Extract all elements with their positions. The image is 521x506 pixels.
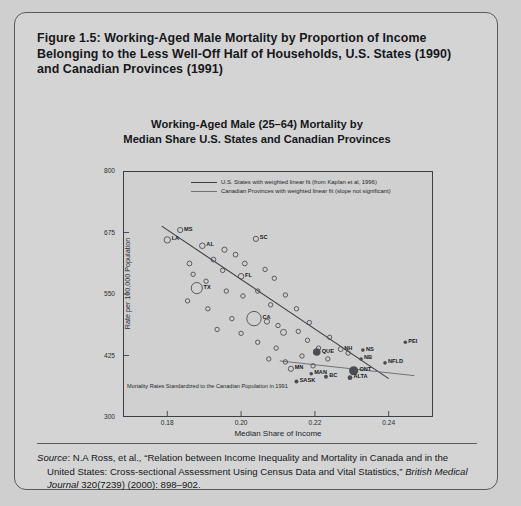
point-label-NB: NB xyxy=(364,354,372,360)
point-label-CA: CA xyxy=(262,314,270,320)
point-NB xyxy=(359,357,363,361)
y-tick-300: 300 xyxy=(75,413,123,420)
x-tick-0.24: 0.24 xyxy=(369,419,409,426)
source-body-2: 320(7239) (2000): 898–902. xyxy=(78,479,200,490)
point-label-AL: AL xyxy=(206,241,213,247)
point-label-NFLD: NFLD xyxy=(388,358,403,364)
x-axis-label: Median Share of Income xyxy=(123,429,433,438)
chart-title-line2: Median Share U.S. States and Canadian Pr… xyxy=(15,132,499,147)
y-tick-425: 425 xyxy=(75,352,123,359)
point-label-MN: MN xyxy=(295,364,304,370)
point-label-ALTA: ALTA xyxy=(354,373,368,379)
plot-canvas xyxy=(123,171,433,417)
chart-title: Working-Aged Male (25–64) Mortality by M… xyxy=(15,117,499,146)
point-label-TX: TX xyxy=(204,284,211,290)
chart-title-line1: Working-Aged Male (25–64) Mortality by xyxy=(15,117,499,132)
x-tick-0.18: 0.18 xyxy=(147,419,187,426)
legend-item-canada-fit: Canadian Provinces with weighted linear … xyxy=(191,188,391,194)
point-label-MAN: MAN xyxy=(314,369,327,375)
point-NFLD xyxy=(383,361,387,365)
point-label-FL: FL xyxy=(245,272,252,278)
legend-swatch-canada-fit xyxy=(191,191,217,192)
point-SASK xyxy=(294,380,298,384)
point-label-PEI: PEI xyxy=(408,338,417,344)
source-label: Source xyxy=(37,452,67,463)
y-tick-675: 675 xyxy=(75,229,123,236)
y-tick-800: 800 xyxy=(75,167,123,174)
point-label-SC: SC xyxy=(260,234,268,240)
legend-item-us-fit: U.S. States with weighted linear fit (fr… xyxy=(191,179,377,185)
x-tick-0.20: 0.20 xyxy=(221,419,261,426)
x-tick-0.22: 0.22 xyxy=(295,419,335,426)
point-MAN xyxy=(309,372,313,376)
point-PEI xyxy=(404,340,408,344)
point-label-LA: LA xyxy=(172,235,179,241)
point-NS xyxy=(361,348,365,352)
point-ALTA xyxy=(348,375,353,380)
point-QUE xyxy=(313,348,321,356)
plot-frame-rect xyxy=(124,172,433,417)
y-tick-550: 550 xyxy=(75,290,123,297)
source-citation: Source: N.A Ross, et al., “Relation betw… xyxy=(37,451,477,492)
figure-caption: Figure 1.5: Working-Aged Male Mortality … xyxy=(37,31,467,78)
point-label-QUE: QUE xyxy=(322,348,334,354)
point-label-BC: BC xyxy=(329,372,337,378)
plot-note: Mortality Rates Standardized to the Cana… xyxy=(127,383,288,389)
source-body-1: N.A Ross, et al., “Relation between Inco… xyxy=(47,452,448,477)
legend-swatch-us-fit xyxy=(191,182,217,183)
point-BC xyxy=(324,375,328,379)
point-label-MS: MS xyxy=(184,226,192,232)
point-label-NS: NS xyxy=(366,346,374,352)
legend-label-us-fit: U.S. States with weighted linear fit (fr… xyxy=(221,179,377,185)
point-label-NH: NH xyxy=(344,345,352,351)
point-label-SASK: SASK xyxy=(300,377,316,383)
scatter-plot: Rate per 100,000 Population Median Share… xyxy=(123,171,433,417)
source-divider xyxy=(37,443,477,444)
legend-label-canada-fit: Canadian Provinces with weighted linear … xyxy=(221,188,391,194)
y-axis-label: Rate per 100,000 Population xyxy=(123,194,132,374)
point-label-ONT: ONT xyxy=(359,366,371,372)
figure-panel: Figure 1.5: Working-Aged Male Mortality … xyxy=(14,12,498,490)
